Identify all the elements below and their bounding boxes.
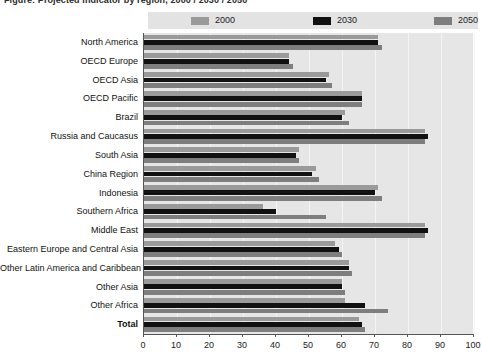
x-tick-label: 70 [369,340,379,350]
bar-2030[interactable] [144,247,339,252]
category-label: Russia and Caucasus [0,131,138,142]
legend-item-2050: 2050 [434,12,478,29]
bar-2050[interactable] [144,158,299,163]
bar-group-row: South Asia [0,146,482,165]
bar-2000[interactable] [144,72,329,77]
bar-2030[interactable] [144,209,276,214]
legend-swatch-2050 [434,17,452,25]
bar-2000[interactable] [144,166,316,171]
bar-2050[interactable] [144,45,382,50]
category-label: Other Latin America and Caribbean [0,263,138,274]
page-title: Figure: Projected indicator by region, 2… [4,0,247,5]
bar-2050[interactable] [144,177,319,182]
category-label: China Region [0,169,138,180]
bar-2050[interactable] [144,327,365,332]
bar-2030[interactable] [144,96,362,101]
bar-group [144,127,474,146]
bar-2030[interactable] [144,153,296,158]
bar-2000[interactable] [144,298,345,303]
x-tick-mark [308,334,309,337]
category-label: Total [0,319,138,330]
bar-2000[interactable] [144,260,349,265]
bar-2050[interactable] [144,309,388,314]
bar-2030[interactable] [144,40,378,45]
bar-2030[interactable] [144,190,375,195]
bar-2050[interactable] [144,64,293,69]
legend-item-2030: 2030 [313,12,357,29]
legend-swatch-2000 [191,17,209,25]
bar-group [144,146,474,165]
bar-2050[interactable] [144,139,425,144]
x-tick-label: 10 [171,340,181,350]
bar-2000[interactable] [144,223,425,228]
bar-2000[interactable] [144,241,335,246]
bar-group [144,71,474,90]
bar-2030[interactable] [144,134,428,139]
bar-group [144,259,474,278]
bar-2000[interactable] [144,129,425,134]
bar-group-row: Indonesia [0,184,482,203]
bar-2050[interactable] [144,196,382,201]
chart-title-strip: Figure: Projected indicator by region, 2… [0,0,482,9]
bar-2030[interactable] [144,172,312,177]
bar-2050[interactable] [144,271,352,276]
legend-swatch-2030 [313,17,331,25]
x-tick-label: 80 [402,340,412,350]
bar-group [144,240,474,259]
bar-group [144,108,474,127]
x-tick-mark [176,334,177,337]
category-label: Other Africa [0,300,138,311]
category-label: OECD Asia [0,75,138,86]
bar-2030[interactable] [144,303,365,308]
bar-group [144,278,474,297]
bar-group-row: OECD Asia [0,71,482,90]
bar-2050[interactable] [144,252,342,257]
bar-group [144,202,474,221]
bar-2030[interactable] [144,228,428,233]
bar-group-row: OECD Europe [0,52,482,71]
x-tick-label: 60 [336,340,346,350]
category-label: Other Asia [0,282,138,293]
x-tick-mark [440,334,441,337]
category-label: North America [0,37,138,48]
bar-group-row: China Region [0,165,482,184]
category-label: OECD Pacific [0,93,138,104]
bar-2050[interactable] [144,215,326,220]
legend-label-2000: 2000 [215,16,235,25]
bar-2000[interactable] [144,317,359,322]
bar-2030[interactable] [144,284,342,289]
bar-2000[interactable] [144,204,263,209]
legend-label-2050: 2050 [458,16,478,25]
bar-group-row: Southern Africa [0,202,482,221]
bar-2050[interactable] [144,290,345,295]
bar-2030[interactable] [144,115,342,120]
x-tick-label: 20 [204,340,214,350]
bar-2030[interactable] [144,59,289,64]
bar-2000[interactable] [144,110,345,115]
bar-2000[interactable] [144,279,342,284]
bar-2050[interactable] [144,233,425,238]
bar-2050[interactable] [144,121,349,126]
bar-group [144,33,474,52]
bar-2000[interactable] [144,185,378,190]
bar-2050[interactable] [144,83,332,88]
bar-2000[interactable] [144,147,299,152]
bar-2030[interactable] [144,266,349,271]
bar-2030[interactable] [144,322,362,327]
bar-2050[interactable] [144,102,362,107]
bar-2000[interactable] [144,53,289,58]
bar-group-row: Other Asia [0,278,482,297]
category-label: OECD Europe [0,56,138,67]
bar-2030[interactable] [144,78,326,83]
category-label: South Asia [0,150,138,161]
bar-2000[interactable] [144,91,362,96]
chart-legend: 2000 2030 2050 [148,12,478,29]
bar-group [144,184,474,203]
category-label: Middle East [0,225,138,236]
bar-2000[interactable] [144,35,378,40]
bar-group-row: OECD Pacific [0,89,482,108]
x-tick-mark [407,334,408,337]
x-tick-mark [143,334,144,337]
bar-group [144,89,474,108]
x-tick-mark [374,334,375,337]
